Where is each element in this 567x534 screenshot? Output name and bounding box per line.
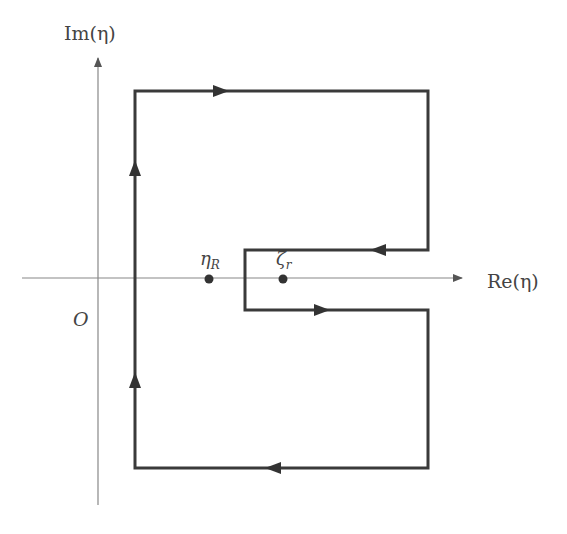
x-axis-label: Re(η) — [487, 270, 539, 292]
zeta-r-label: ζr — [276, 248, 293, 272]
arrow-bottom-left-icon — [265, 462, 281, 474]
origin-label: O — [73, 308, 89, 330]
arrow-top-right-icon — [213, 85, 229, 97]
point-eta-R — [205, 275, 214, 284]
arrow-left-lower-up-icon — [129, 372, 141, 388]
arrow-inner-upper-left-icon — [370, 244, 386, 256]
contour-diagram: Im(η) Re(η) O ηR ζr — [0, 0, 567, 534]
point-zeta-r — [279, 275, 288, 284]
y-axis-label: Im(η) — [64, 22, 116, 44]
eta-R-label: ηR — [200, 248, 220, 272]
arrow-left-upper-up-icon — [129, 160, 141, 176]
arrow-inner-lower-right-icon — [314, 304, 330, 316]
